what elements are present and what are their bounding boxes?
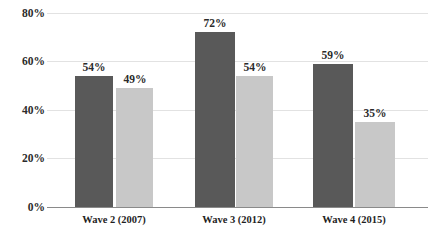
bar-group-wave-3: 72% 54% — [195, 13, 272, 207]
x-tick-label-wave-3: Wave 3 (2012) — [202, 214, 266, 225]
bar-wave-2-series-2[interactable] — [116, 88, 153, 207]
bar-chart: 80% 60% 40% 20% 0% 54% 49% 72% 54% 59% 3… — [0, 0, 440, 238]
bar-value-wave-3-series-2: 54% — [244, 61, 267, 73]
x-axis-line — [47, 207, 428, 208]
bar-wave-3-series-2[interactable] — [236, 76, 273, 207]
y-tick-label-60: 60% — [1, 55, 45, 67]
bar-group-wave-4: 59% 35% — [313, 13, 395, 207]
x-tick-label-wave-2: Wave 2 (2007) — [82, 214, 146, 225]
bar-groups: 54% 49% 72% 54% 59% 35% — [47, 13, 428, 207]
y-tick-label-80: 80% — [1, 7, 45, 19]
bar-wave-4-series-2[interactable] — [355, 122, 395, 207]
x-tick-label-wave-4: Wave 4 (2015) — [322, 214, 386, 225]
bar-value-wave-2-series-2: 49% — [124, 73, 147, 85]
bar-group-wave-2: 54% 49% — [75, 13, 152, 207]
bar-value-wave-4-series-2: 35% — [364, 107, 387, 119]
bar-value-wave-3-series-1: 72% — [204, 17, 227, 29]
bar-value-wave-2-series-1: 54% — [83, 61, 106, 73]
bar-wave-2-series-1[interactable] — [75, 76, 113, 207]
y-tick-label-20: 20% — [1, 152, 45, 164]
bar-wave-4-series-1[interactable] — [313, 64, 353, 207]
bar-value-wave-4-series-1: 59% — [322, 49, 345, 61]
bar-wave-3-series-1[interactable] — [195, 32, 235, 207]
y-tick-label-0: 0% — [1, 201, 45, 213]
y-tick-label-40: 40% — [1, 104, 45, 116]
